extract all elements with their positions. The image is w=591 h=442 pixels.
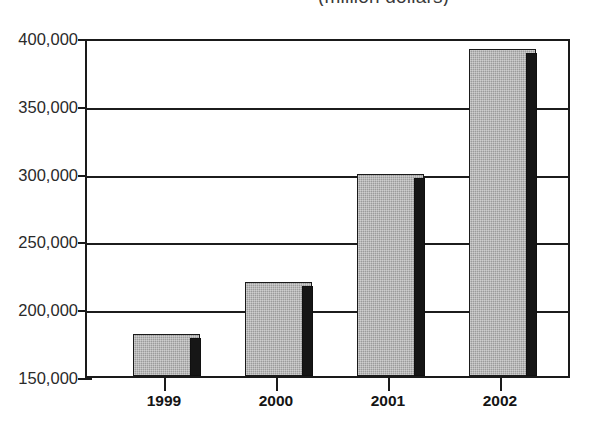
x-axis-tick-marks (85, 378, 570, 392)
bar-1999 (133, 334, 200, 376)
y-axis-tick-label: 300,000 (4, 165, 78, 184)
y-axis-tick-label: 150,000 (4, 369, 78, 388)
chart-title: (million dollars) (318, 0, 558, 6)
x-axis-tick-label: 2000 (231, 392, 321, 410)
x-axis-tick-mark (276, 378, 278, 391)
bar-side-1999 (190, 338, 201, 376)
bar-2000 (245, 282, 312, 376)
plot-area (85, 39, 570, 378)
y-axis-tick-label: 350,000 (4, 97, 78, 116)
x-axis-tick-mark (164, 378, 166, 391)
y-axis-tick-label: 400,000 (4, 30, 78, 49)
bar-side-2001 (414, 178, 425, 376)
bar-side-2000 (302, 286, 313, 376)
y-axis-tick-label: 200,000 (4, 301, 78, 320)
x-axis-tick-label: 1999 (119, 392, 209, 410)
y-axis-tick-label: 250,000 (4, 233, 78, 252)
x-axis-label-group: 1999 2000 2001 2002 (85, 392, 570, 418)
y-axis-label-group: 400,000 350,000 300,000 250,000 200,000 … (0, 39, 78, 378)
x-axis-tick-label: 2002 (455, 392, 545, 410)
x-axis-tick-label: 2001 (343, 392, 433, 410)
bar-2002 (469, 49, 536, 376)
x-axis-tick-mark (500, 378, 502, 391)
bar-side-2002 (526, 53, 537, 376)
bar-chart-figure: (million dollars) 400,000 350,000 300,00… (0, 0, 591, 442)
bar-2001 (357, 174, 424, 376)
x-axis-tick-mark (388, 378, 390, 391)
